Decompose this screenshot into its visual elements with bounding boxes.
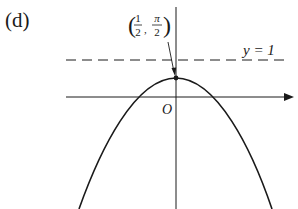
point-label: ( 1 2 , π 2 ) (128, 12, 171, 38)
vertex-point (174, 76, 179, 81)
comma: , (144, 23, 147, 35)
diagram-canvas: (d) y = 1 ( 1 2 , π 2 ) O (0, 0, 298, 209)
origin-label: O (162, 102, 172, 117)
x-numerator: 1 (135, 12, 141, 24)
leader-line (168, 42, 174, 72)
panel-label: (d) (5, 8, 30, 32)
y-numerator: π (154, 12, 160, 24)
x-axis-arrow-icon (284, 93, 294, 101)
y-denominator: 2 (154, 26, 160, 38)
x-denominator: 2 (135, 26, 141, 38)
asymptote-label: y = 1 (241, 42, 275, 58)
leader-arrow-icon (172, 68, 177, 77)
close-paren: ) (163, 12, 171, 38)
